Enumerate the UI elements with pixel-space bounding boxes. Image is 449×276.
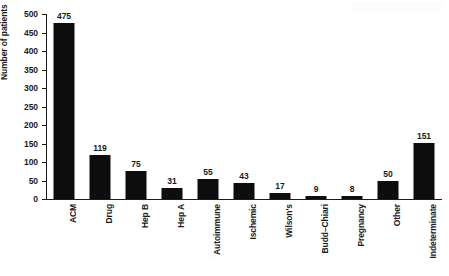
y-axis-tick-label: 100 <box>0 157 38 167</box>
x-axis-category-label: Other <box>392 204 402 226</box>
bar-slot: 9 <box>298 14 334 199</box>
y-axis-tick <box>42 199 46 200</box>
x-axis-line <box>46 199 442 200</box>
bar-value-label: 50 <box>383 169 392 179</box>
x-axis-category-label: Autoimmune <box>212 204 222 255</box>
bar-value-label: 43 <box>239 171 248 181</box>
bar-slot: 151 <box>406 14 442 199</box>
y-axis-tick-label: 300 <box>0 83 38 93</box>
bar-value-label: 31 <box>167 176 176 186</box>
x-axis-category-label: Hep B <box>140 204 150 228</box>
bar-value-label: 151 <box>417 131 431 141</box>
x-axis-category-label: Budd–Chiari <box>320 204 330 253</box>
bar-slot: 475 <box>46 14 82 199</box>
bar-chart: Number of patients 050100150200250300350… <box>0 0 449 276</box>
bar <box>162 188 183 199</box>
bar <box>378 181 399 200</box>
bar-value-label: 75 <box>131 159 140 169</box>
bar <box>126 171 147 199</box>
scan-artifact-top-right <box>351 2 443 11</box>
x-axis-category-label: ACM <box>68 204 78 223</box>
bar-value-label: 8 <box>350 184 355 194</box>
bar-value-label: 17 <box>275 181 284 191</box>
y-axis-tick-label: 500 <box>0 9 38 19</box>
bar-value-label: 55 <box>203 167 212 177</box>
bar-slot: 50 <box>370 14 406 199</box>
x-axis-category-label: Hep A <box>176 204 186 228</box>
bar-slot: 55 <box>190 14 226 199</box>
x-axis-category-label: Wilson's <box>284 204 294 238</box>
y-axis-tick-label: 150 <box>0 139 38 149</box>
bar-value-label: 475 <box>57 11 71 21</box>
y-axis-tick-label: 350 <box>0 65 38 75</box>
bar-value-label: 119 <box>93 143 106 153</box>
bar <box>306 196 327 199</box>
bar <box>234 183 255 199</box>
y-axis-tick-label: 200 <box>0 120 38 130</box>
bar-slot: 17 <box>262 14 298 199</box>
bar <box>90 155 111 199</box>
y-axis-tick-label: 400 <box>0 46 38 56</box>
bar-series: 47511975315543179850151 <box>46 14 442 199</box>
bar <box>342 196 363 199</box>
bar-slot: 75 <box>118 14 154 199</box>
bar <box>414 143 435 199</box>
bar <box>198 179 219 199</box>
bar-value-label: 9 <box>314 184 319 194</box>
bar-slot: 31 <box>154 14 190 199</box>
x-axis-category-label: Pregnancy <box>356 204 366 247</box>
x-axis-category-label: Ischemic <box>248 204 258 240</box>
x-axis-category-label: Drug <box>104 204 114 223</box>
bar-slot: 119 <box>82 14 118 199</box>
y-axis-tick-label: 450 <box>0 28 38 38</box>
y-axis-tick-label: 0 <box>0 194 38 204</box>
bar <box>270 193 291 199</box>
y-axis-tick-label: 50 <box>0 176 38 186</box>
bar <box>54 23 75 199</box>
x-axis-category-label: Indeterminate <box>428 204 438 258</box>
bar-slot: 8 <box>334 14 370 199</box>
bar-slot: 43 <box>226 14 262 199</box>
y-axis-tick-label: 250 <box>0 102 38 112</box>
